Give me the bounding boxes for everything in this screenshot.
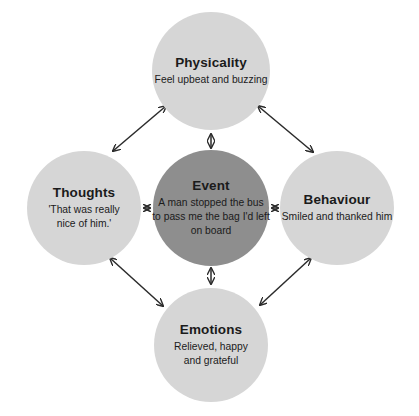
node-circle-behaviour [280,151,394,265]
node-emotions[interactable]: EmotionsRelieved, happyand grateful [154,288,268,402]
node-title-emotions: Emotions [180,322,242,337]
five-areas-diagram: PhysicalityFeel upbeat and buzzingThough… [0,0,419,416]
node-desc-event-line-2: on board [191,225,232,236]
node-title-physicality: Physicality [175,55,247,70]
node-desc-thoughts-line-0: 'That was really [48,204,120,215]
connector-behaviour-emotions [260,258,311,305]
node-desc-behaviour-line-0: Smiled and thanked him [282,211,392,222]
node-circle-physicality [152,12,270,130]
connector-thoughts-physicality [113,106,166,151]
node-title-behaviour: Behaviour [304,192,372,207]
connector-physicality-behaviour [258,106,313,152]
node-desc-emotions-line-1: and grateful [184,355,238,366]
node-desc-event-line-0: A man stopped the bus [158,197,263,208]
connector-thoughts-emotions [110,258,163,306]
node-title-thoughts: Thoughts [53,185,115,200]
node-physicality[interactable]: PhysicalityFeel upbeat and buzzing [152,12,270,130]
diagram-canvas: PhysicalityFeel upbeat and buzzingThough… [0,0,419,416]
node-desc-emotions-line-0: Relieved, happy [174,341,249,352]
node-desc-physicality-line-0: Feel upbeat and buzzing [155,74,268,85]
node-event[interactable]: EventA man stopped the busto pass me the… [152,150,270,266]
nodes-layer: PhysicalityFeel upbeat and buzzingThough… [27,12,394,402]
node-desc-event-line-1: to pass me the bag I'd left [152,211,270,222]
node-desc-thoughts-line-1: nice of him.' [57,218,112,229]
node-behaviour[interactable]: BehaviourSmiled and thanked him [280,151,394,265]
node-thoughts[interactable]: Thoughts'That was reallynice of him.' [27,151,141,265]
node-title-event: Event [192,178,230,193]
